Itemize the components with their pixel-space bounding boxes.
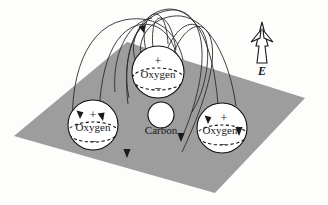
diagram-canvas: + Oxygen – Carbon + Oxygen –: [0, 0, 328, 205]
atom-oxygen-center[interactable]: + Oxygen –: [132, 46, 184, 98]
oxygen-right-minus-sign: –: [219, 136, 227, 150]
oxygen-right-label: Oxygen: [203, 124, 238, 136]
external-electric-field-arrow: E: [251, 22, 273, 78]
oxygen-left-minus-sign: –: [89, 133, 97, 147]
oxygen-center-minus-sign: –: [154, 80, 162, 94]
oxygen-center-label: Oxygen: [141, 68, 176, 80]
atom-oxygen-right[interactable]: + Oxygen –: [197, 103, 247, 153]
oxygen-right-plus-sign: +: [221, 111, 228, 125]
oxygen-left-plus-sign: +: [90, 108, 97, 122]
oxygen-left-label: Oxygen: [76, 121, 111, 133]
efield-arrow-shape: [256, 22, 268, 63]
figure-container: + Oxygen – Carbon + Oxygen –: [0, 0, 328, 205]
oxygen-center-plus-sign: +: [155, 54, 162, 68]
efield-label: E: [257, 64, 266, 78]
atom-oxygen-left[interactable]: + Oxygen –: [68, 100, 118, 150]
carbon-label: Carbon: [145, 124, 178, 136]
